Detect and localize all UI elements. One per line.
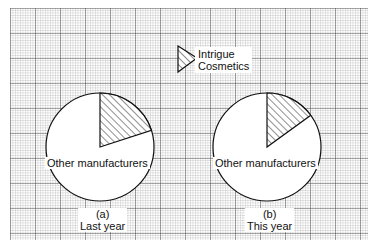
caption-a-letter: (a) xyxy=(80,208,125,220)
pie-b-other-label: Other manufacturers xyxy=(213,157,318,169)
caption-b-letter: (b) xyxy=(247,208,292,220)
caption-a-text: Last year xyxy=(80,220,125,232)
pie-chart-figure xyxy=(0,0,370,248)
pie-chart-this-year xyxy=(213,93,321,201)
legend-label: Intrigue Cosmetics xyxy=(195,47,252,73)
caption-b: (b) This year xyxy=(245,208,294,232)
legend-line-2: Cosmetics xyxy=(198,60,249,72)
caption-b-text: This year xyxy=(247,220,292,232)
legend-line-1: Intrigue xyxy=(198,48,249,60)
caption-a: (a) Last year xyxy=(78,208,127,232)
pie-a-other-label: Other manufacturers xyxy=(45,157,150,169)
pie-chart-last-year xyxy=(46,93,154,201)
